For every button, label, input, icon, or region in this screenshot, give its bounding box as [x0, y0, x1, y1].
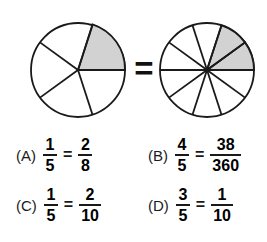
option-c-left-fraction: 1 5 [44, 186, 58, 224]
option-c-left-fraction-bar [44, 204, 58, 206]
option-b-left-fraction: 4 5 [175, 136, 189, 174]
option-c-right-numerator: 2 [84, 186, 97, 203]
fifths-circle [31, 23, 125, 117]
option-c-right-fraction-bar [79, 204, 101, 206]
option-c-operator: = [64, 197, 73, 213]
option-d-left-numerator: 3 [176, 186, 189, 203]
option-d-left-fraction-bar [176, 204, 190, 206]
option-d-right-fraction: 1 10 [211, 186, 233, 224]
option-d-right-fraction-bar [211, 204, 233, 206]
option-c-left-denominator: 5 [44, 207, 57, 224]
option-b-label: (B) [148, 148, 168, 163]
option-c-label: (C) [16, 198, 37, 213]
option-a-right-fraction: 2 8 [78, 136, 92, 174]
option-c-left-numerator: 1 [44, 186, 57, 203]
option-d-right-denominator: 10 [211, 207, 233, 224]
option-b[interactable]: (B) 4 5 = 38 360 [148, 136, 241, 174]
option-b-left-fraction-bar [175, 154, 189, 156]
option-b-right-numerator: 38 [215, 136, 237, 153]
option-d-left-fraction: 3 5 [176, 186, 190, 224]
option-d-right-numerator: 1 [216, 186, 229, 203]
tenths-circle [160, 23, 254, 117]
question-page: = (A) 1 5 = 2 8 (B) 4 5 [0, 0, 267, 242]
option-a-left-fraction-bar [43, 154, 57, 156]
option-a-operator: = [63, 147, 72, 163]
option-d-operator: = [196, 197, 205, 213]
option-a-right-fraction-bar [78, 154, 92, 156]
option-c-right-fraction: 2 10 [79, 186, 101, 224]
option-c-right-denominator: 10 [79, 207, 101, 224]
option-d-left-denominator: 5 [176, 207, 189, 224]
option-d[interactable]: (D) 3 5 = 1 10 [148, 186, 233, 224]
option-a[interactable]: (A) 1 5 = 2 8 [16, 136, 92, 174]
option-b-left-numerator: 4 [176, 136, 189, 153]
answer-options: (A) 1 5 = 2 8 (B) 4 5 = 38 [0, 128, 267, 242]
option-b-right-fraction: 38 360 [210, 136, 241, 174]
pie-figure-area: = [0, 0, 267, 130]
option-a-left-denominator: 5 [44, 157, 57, 174]
option-b-operator: = [195, 147, 204, 163]
option-a-right-denominator: 8 [79, 157, 92, 174]
option-a-right-numerator: 2 [79, 136, 92, 153]
option-c[interactable]: (C) 1 5 = 2 10 [16, 186, 101, 224]
option-a-left-fraction: 1 5 [43, 136, 57, 174]
option-a-left-numerator: 1 [44, 136, 57, 153]
option-d-label: (D) [148, 198, 169, 213]
option-b-right-denominator: 360 [210, 157, 241, 174]
option-b-right-fraction-bar [210, 154, 241, 156]
equals-sign: = [133, 52, 155, 86]
option-b-left-denominator: 5 [176, 157, 189, 174]
option-a-label: (A) [16, 148, 36, 163]
